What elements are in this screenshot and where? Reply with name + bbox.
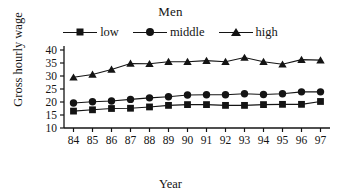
plot-area: 10152025303540 8485868788899091929394959… [0, 0, 341, 194]
data-point-middle [108, 97, 115, 104]
data-point-low [127, 105, 134, 112]
y-tick-label: 15 [46, 109, 58, 121]
x-tick-label: 97 [315, 134, 327, 146]
x-tick-label: 96 [296, 134, 308, 146]
x-axis: 8485868788899091929394959697 [64, 128, 330, 146]
data-point-middle [184, 91, 191, 98]
data-point-low [222, 102, 229, 109]
y-tick-label: 20 [46, 96, 58, 108]
data-point-middle [241, 90, 248, 97]
x-tick-label: 94 [258, 134, 270, 146]
data-series-group [69, 54, 324, 115]
data-point-high [240, 54, 248, 61]
y-tick-label: 10 [46, 122, 58, 134]
x-tick-label: 95 [277, 134, 289, 146]
x-tick-label: 85 [87, 134, 99, 146]
y-tick-label: 25 [46, 83, 58, 95]
data-point-low [279, 101, 286, 108]
x-tick-label: 86 [106, 134, 118, 146]
data-point-low [89, 106, 96, 113]
data-point-low [184, 101, 191, 108]
data-point-middle [260, 91, 267, 98]
data-point-middle [89, 98, 96, 105]
data-point-low [260, 101, 267, 108]
x-tick-label: 89 [163, 134, 175, 146]
data-point-middle [165, 93, 172, 100]
chart-figure: Men low middle high Gross hourly wage Ye… [0, 0, 341, 194]
data-point-low [241, 102, 248, 109]
data-point-low [146, 104, 153, 111]
data-point-middle [70, 99, 77, 106]
data-point-low [203, 101, 210, 108]
data-point-middle [279, 90, 286, 97]
x-tick-label: 88 [144, 134, 156, 146]
data-point-middle [146, 94, 153, 101]
data-point-middle [203, 91, 210, 98]
y-tick-label: 30 [46, 70, 58, 82]
y-tick-label: 35 [46, 57, 58, 69]
x-tick-label: 87 [125, 134, 137, 146]
data-point-middle [222, 91, 229, 98]
data-point-low [165, 102, 172, 109]
y-tick-label: 40 [46, 44, 58, 56]
data-point-low [298, 101, 305, 108]
data-point-high [107, 66, 115, 73]
data-point-low [108, 105, 115, 112]
data-point-middle [127, 96, 134, 103]
data-point-low [70, 108, 77, 115]
data-point-low [317, 98, 324, 105]
x-tick-label: 90 [182, 134, 194, 146]
x-tick-label: 93 [239, 134, 251, 146]
x-tick-label: 84 [68, 134, 80, 146]
x-tick-label: 92 [220, 134, 232, 146]
x-tick-label: 91 [201, 134, 213, 146]
y-axis: 10152025303540 [46, 44, 65, 134]
data-point-middle [298, 88, 305, 95]
data-point-middle [317, 88, 324, 95]
